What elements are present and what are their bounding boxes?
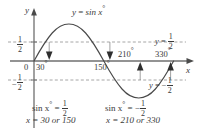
line-label-upper: y = 1 2 [155,33,174,51]
degree-symbol-caption-right: ° [122,100,125,109]
fraction-numerator: 1 [168,33,174,43]
fraction-half-positive: 1 2 [17,36,23,54]
x-tick-label-150: 150° [94,63,110,72]
degree-symbol-caption-left: ° [49,100,52,109]
x-tick-label-30: 30° [36,63,48,72]
y-axis-label: y [25,6,29,15]
curve-title-equals: = [78,7,83,17]
equals-caption-left: = [55,103,60,113]
fraction-half-negative: 1 2 [17,74,23,92]
degree-symbol-150: ° [107,59,110,68]
sin-function-right: sin x [105,103,122,113]
curve-title: y = sin x° [72,8,105,17]
fraction-numerator: 1 [140,100,146,110]
line-label-lower: y = − 1 2 [149,77,173,95]
x-axis-label: x [186,66,190,75]
y-tick-label-positive: 1 2 [17,36,23,54]
degree-symbol-210: ° [131,46,134,55]
x-tick-label-330: 330° [155,50,171,59]
x-tick-value-150: 150 [94,62,107,72]
fraction-denominator: 2 [167,86,173,95]
line-label-upper-equals: = [161,36,166,46]
fraction-numerator: 1 [17,74,23,84]
equals-caption-right: = [128,103,133,113]
caption-right-solution: x = 210 or 330 [106,116,160,125]
curve-title-lhs: y [72,7,76,17]
line-label-lower-equals: = [155,80,160,90]
x-tick-value-30: 30 [36,62,45,72]
sine-curve-figure: y x 0 y = sin x° 1 2 − 1 2 30° 150° 210°… [0,0,204,132]
fraction-numerator: 1 [167,77,173,87]
line-label-lower-lhs: y [149,80,153,90]
x-axis-arrowhead [187,58,195,64]
fraction-half-lower: 1 2 [167,77,173,95]
x-tick-label-210: 210° [118,50,134,59]
fraction-numerator: 1 [62,100,68,110]
caption-left-solution: x = 30 or 150 [26,116,76,125]
y-tick-label-negative: − 1 2 [12,74,23,92]
curve-title-degree: ° [102,4,105,13]
sin-function-left: sin x [32,103,49,113]
fraction-denominator: 2 [17,45,23,54]
curve-title-rhs: sin x [86,7,103,17]
origin-label: 0 [24,63,28,72]
fraction-numerator: 1 [17,36,23,46]
fraction-denominator: 2 [17,83,23,92]
line-label-upper-lhs: y [155,36,159,46]
x-tick-value-210: 210 [118,49,131,59]
up-arrow-210 [137,62,144,71]
fraction-half-upper: 1 2 [168,33,174,51]
y-axis-arrowhead [31,8,37,16]
fraction-denominator: 2 [168,42,174,51]
degree-symbol-30: ° [45,59,48,68]
